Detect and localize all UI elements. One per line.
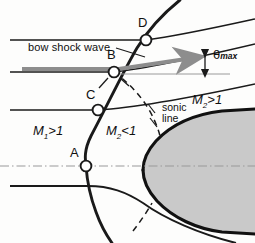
point-marker-b <box>109 67 120 78</box>
bow-shock-wave-label: bow shock wave <box>28 42 110 53</box>
mach-relation: >1 <box>48 123 63 138</box>
mach-label-subsonic: M2<1 <box>106 124 136 141</box>
point-label-b: B <box>107 48 116 61</box>
blunt-body-shape <box>143 109 255 234</box>
point-label-c: C <box>86 88 95 101</box>
point-marker-d <box>141 35 152 46</box>
bow-shock-wave-leader-line <box>116 48 145 57</box>
point-marker-a <box>81 161 92 172</box>
shock-tick-b-left <box>99 78 108 88</box>
shock-tick-b-right <box>120 78 129 86</box>
point-label-d: D <box>138 16 147 29</box>
theta-max-label: θmax <box>213 48 237 61</box>
bow-shock-diagram: bow shock wave D B C A θmax sonic line M… <box>0 0 255 243</box>
diagram-canvas <box>0 0 255 243</box>
point-label-a: A <box>70 146 79 159</box>
streamline-arrow-deflected <box>112 59 186 70</box>
mach-symbol: M <box>192 92 203 107</box>
mach-relation: >1 <box>207 92 222 107</box>
mach-label-upstream: M1>1 <box>33 124 63 141</box>
point-marker-c <box>93 105 104 116</box>
streamline-outgoing-d <box>146 19 255 40</box>
mach-label-supersonic-downstream: M2>1 <box>192 93 222 110</box>
sonic-line-leader-upper <box>148 104 155 113</box>
theta-max-subscript: max <box>220 51 237 61</box>
sonic-line-label: sonic line <box>162 102 187 124</box>
mach-symbol: M <box>106 123 117 138</box>
mach-symbol: M <box>33 123 44 138</box>
sonic-line-label-row2: line <box>162 113 187 124</box>
mach-relation: <1 <box>121 123 136 138</box>
